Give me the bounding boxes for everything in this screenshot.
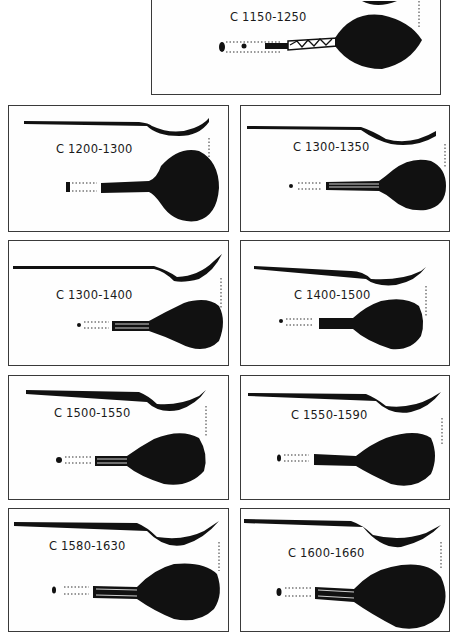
spoon-panel-1580-1630: C 1580-1630 [8,508,229,632]
spoon-drawing [241,106,450,232]
spoon-drawing [9,241,229,366]
spoon-panel-1400-1500: C 1400-1500 [240,240,450,366]
spoon-panel-1200-1300: C 1200-1300 [8,105,229,232]
spoon-panel-1600-1660: C 1600-1660 [240,508,450,632]
spoon-panel-1300-1350: C 1300-1350 [240,105,450,232]
date-label: C 1150-1250 [230,10,307,24]
date-label: C 1200-1300 [56,142,133,156]
date-label: C 1400-1500 [294,288,371,302]
spoon-drawing [9,376,229,500]
spoon-panel-1300-1400: C 1300-1400 [8,240,229,366]
spoon-panel-1150-1250: C 1150-1250 [151,0,441,95]
spoon-drawing [241,241,450,366]
spoon-panel-1550-1590: C 1550-1590 [240,375,450,500]
spoon-drawing [241,376,450,500]
spoon-drawing [9,509,229,632]
date-label: C 1580-1630 [49,539,126,553]
date-label: C 1300-1400 [56,288,133,302]
spoon-panel-1500-1550: C 1500-1550 [8,375,229,500]
date-label: C 1500-1550 [54,406,131,420]
date-label: C 1300-1350 [293,140,370,154]
spoon-drawing [9,106,229,232]
date-label: C 1600-1660 [288,546,365,560]
date-label: C 1550-1590 [291,408,368,422]
spoon-drawing [241,509,450,632]
